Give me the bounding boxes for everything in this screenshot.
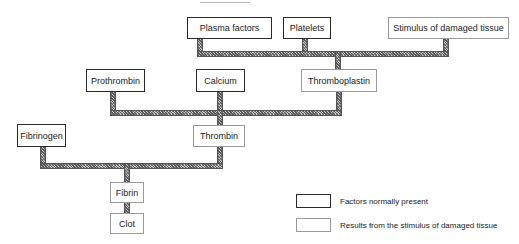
node-label: Plasma factors <box>200 23 260 33</box>
node-label: Thrombin <box>200 131 238 141</box>
connector-to-thromboplastin <box>335 51 341 70</box>
node-label: Fibrinogen <box>20 131 63 141</box>
connector-top-horizontal <box>197 51 449 57</box>
node-clot: Clot <box>110 213 144 234</box>
node-thrombin: Thrombin <box>193 125 245 147</box>
legend-label-normal: Factors normally present <box>340 197 428 206</box>
node-label: Prothrombin <box>91 76 140 86</box>
node-calcium: Calcium <box>196 69 245 92</box>
node-label: Platelets <box>290 23 325 33</box>
legend-swatch-result <box>296 218 331 232</box>
node-label: Thromboplastin <box>308 76 370 86</box>
connector-to-fibrin <box>124 163 130 183</box>
node-stimulus-of-damaged-tissue: Stimulus of damaged tissue <box>388 17 509 39</box>
legend-swatch-normal <box>296 194 331 208</box>
node-prothrombin: Prothrombin <box>86 69 145 92</box>
node-plasma-factors: Plasma factors <box>187 17 272 39</box>
node-label: Stimulus of damaged tissue <box>393 23 504 33</box>
node-label: Fibrin <box>116 188 139 198</box>
scan-artifact-line <box>200 2 250 3</box>
connector-bottom-horizontal <box>40 163 223 169</box>
node-fibrin: Fibrin <box>110 182 144 203</box>
connector-to-thrombin <box>217 110 223 126</box>
node-fibrinogen: Fibrinogen <box>17 124 66 147</box>
node-label: Calcium <box>204 76 237 86</box>
legend-label-result: Results from the stimulus of damaged tis… <box>340 221 497 230</box>
node-platelets: Platelets <box>283 17 331 39</box>
node-thromboplastin: Thromboplastin <box>301 69 377 92</box>
connector-middle-horizontal <box>110 110 342 116</box>
node-label: Clot <box>119 219 135 229</box>
